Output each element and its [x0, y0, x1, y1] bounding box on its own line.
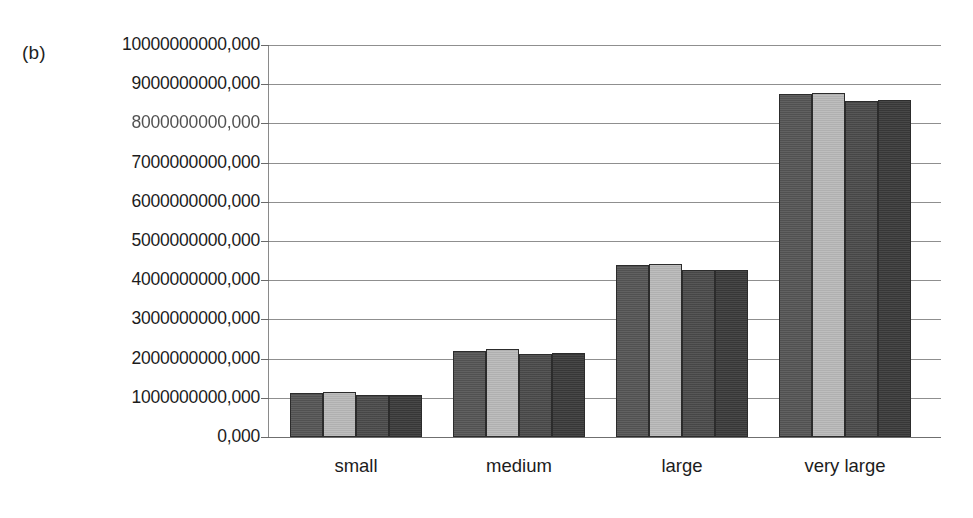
bar-group — [616, 45, 748, 437]
bar — [812, 93, 845, 437]
x-category-label: large — [616, 455, 748, 477]
y-tick-mark — [261, 45, 269, 46]
y-tick-label: 0,000 — [217, 428, 260, 446]
bar — [323, 392, 356, 437]
y-tick-mark — [261, 123, 269, 124]
y-tick-mark — [261, 84, 269, 85]
bar — [552, 353, 585, 437]
y-tick-label: 9000000000,000 — [131, 75, 260, 93]
bar — [649, 264, 682, 437]
y-tick-label: 8000000000,000 — [131, 114, 260, 132]
y-tick-mark — [261, 319, 269, 320]
y-tick-label: 5000000000,000 — [131, 232, 260, 250]
bar — [715, 270, 748, 437]
y-tick-mark — [261, 280, 269, 281]
bar-group — [779, 45, 911, 437]
y-tick-mark — [261, 359, 269, 360]
bar — [845, 101, 878, 437]
y-tick-label: 4000000000,000 — [131, 271, 260, 289]
x-category-label: small — [290, 455, 422, 477]
y-tick-label: 6000000000,000 — [131, 193, 260, 211]
panel-label: (b) — [22, 42, 46, 64]
bar-group — [453, 45, 585, 437]
x-category-label: very large — [779, 455, 911, 477]
bar — [356, 395, 389, 437]
y-tick-mark — [261, 163, 269, 164]
y-tick-mark — [261, 398, 269, 399]
y-tick-label: 3000000000,000 — [131, 310, 260, 328]
bar — [290, 393, 323, 437]
y-tick-label: 10000000000,000 — [122, 36, 260, 54]
y-tick-label: 1000000000,000 — [131, 389, 260, 407]
bar-chart-figure: (b) 0,0001000000000,0002000000000,000300… — [0, 0, 973, 518]
y-tick-mark — [261, 437, 269, 438]
gridline — [268, 437, 941, 438]
bar — [486, 349, 519, 437]
y-tick-label: 2000000000,000 — [131, 350, 260, 368]
bar — [878, 100, 911, 437]
bar — [682, 270, 715, 437]
bar — [779, 94, 812, 437]
bar-group — [290, 45, 422, 437]
y-tick-label: 7000000000,000 — [131, 154, 260, 172]
x-category-label: medium — [453, 455, 585, 477]
y-tick-mark — [261, 241, 269, 242]
plot-area — [268, 45, 941, 437]
y-tick-mark — [261, 202, 269, 203]
bar — [453, 351, 486, 437]
bar — [389, 395, 422, 437]
bar — [616, 265, 649, 437]
bar — [519, 354, 552, 437]
